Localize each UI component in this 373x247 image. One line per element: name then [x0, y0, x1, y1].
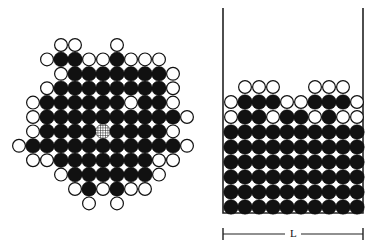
filled-particle [252, 170, 267, 185]
filled-particle [110, 52, 125, 67]
filled-particle [110, 67, 125, 82]
filled-particle [336, 185, 351, 200]
open-particle [111, 39, 124, 52]
open-particle [13, 139, 26, 152]
filled-particle [96, 81, 111, 96]
open-particle [27, 154, 40, 167]
filled-particle [110, 153, 125, 168]
filled-particle [308, 200, 323, 215]
filled-particle [82, 110, 97, 125]
filled-particle [322, 125, 337, 140]
filled-particle [308, 155, 323, 170]
filled-particle [96, 153, 111, 168]
filled-particle [54, 95, 69, 110]
filled-particle [96, 95, 111, 110]
filled-particle [308, 95, 323, 110]
filled-particle [266, 170, 281, 185]
open-particle [309, 81, 322, 94]
particle-container [223, 8, 364, 214]
filled-particle [308, 185, 323, 200]
filled-particle [152, 110, 167, 125]
filled-particle [54, 81, 69, 96]
filled-particle [68, 139, 83, 154]
filled-particle [238, 200, 253, 215]
filled-particle [336, 125, 351, 140]
open-particle [153, 154, 166, 167]
filled-particle [238, 170, 253, 185]
open-particle [281, 96, 294, 109]
filled-particle [68, 124, 83, 139]
filled-particle [40, 95, 55, 110]
open-particle [125, 183, 138, 196]
filled-particle [82, 182, 97, 197]
filled-particle [322, 170, 337, 185]
filled-particle [350, 155, 365, 170]
filled-particle [252, 140, 267, 155]
filled-particle [68, 52, 83, 67]
filled-particle [280, 185, 295, 200]
filled-particle [40, 124, 55, 139]
filled-particle [68, 167, 83, 182]
filled-particle [138, 81, 153, 96]
filled-particle [238, 140, 253, 155]
filled-particle [224, 170, 239, 185]
filled-particle [40, 110, 55, 125]
open-particle [83, 197, 96, 210]
filled-particle [54, 139, 69, 154]
filled-particle [294, 140, 309, 155]
filled-particle [322, 185, 337, 200]
filled-particle [68, 81, 83, 96]
filled-particle [152, 139, 167, 154]
filled-particle [308, 125, 323, 140]
filled-particle [224, 125, 239, 140]
filled-particle [322, 140, 337, 155]
filled-particle [54, 110, 69, 125]
filled-particle [138, 139, 153, 154]
open-particle [27, 96, 40, 109]
open-particle [225, 96, 238, 109]
filled-particle [294, 110, 309, 125]
filled-particle [322, 155, 337, 170]
filled-particle [308, 140, 323, 155]
open-particle [253, 81, 266, 94]
filled-particle [350, 140, 365, 155]
filled-particle [96, 139, 111, 154]
filled-particle [252, 125, 267, 140]
filled-particle [266, 200, 281, 215]
open-particle [309, 111, 322, 124]
filled-particle [294, 185, 309, 200]
filled-particle [280, 125, 295, 140]
open-particle [41, 154, 54, 167]
filled-particle [238, 110, 253, 125]
filled-particle [280, 155, 295, 170]
filled-particle [308, 170, 323, 185]
filled-particle [124, 110, 139, 125]
filled-particle [224, 185, 239, 200]
filled-particle [166, 110, 181, 125]
filled-particle [152, 67, 167, 82]
hatched-marked-particle [96, 124, 111, 139]
filled-particle [138, 153, 153, 168]
filled-particle [110, 110, 125, 125]
filled-particle [96, 67, 111, 82]
filled-particle [350, 125, 365, 140]
open-particle [125, 96, 138, 109]
open-particle [111, 197, 124, 210]
open-particle [41, 53, 54, 66]
filled-particle [110, 167, 125, 182]
filled-particle [124, 139, 139, 154]
open-particle [55, 39, 68, 52]
open-particle [337, 111, 350, 124]
open-particle [167, 82, 180, 95]
filled-particle [96, 167, 111, 182]
filled-particle [322, 110, 337, 125]
open-particle [55, 67, 68, 80]
filled-particle [336, 170, 351, 185]
filled-particle [82, 81, 97, 96]
open-particle [167, 154, 180, 167]
open-particle [27, 125, 40, 138]
filled-particle [266, 95, 281, 110]
scale-bar-label: L [287, 227, 300, 239]
filled-particle [138, 67, 153, 82]
open-particle [295, 96, 308, 109]
